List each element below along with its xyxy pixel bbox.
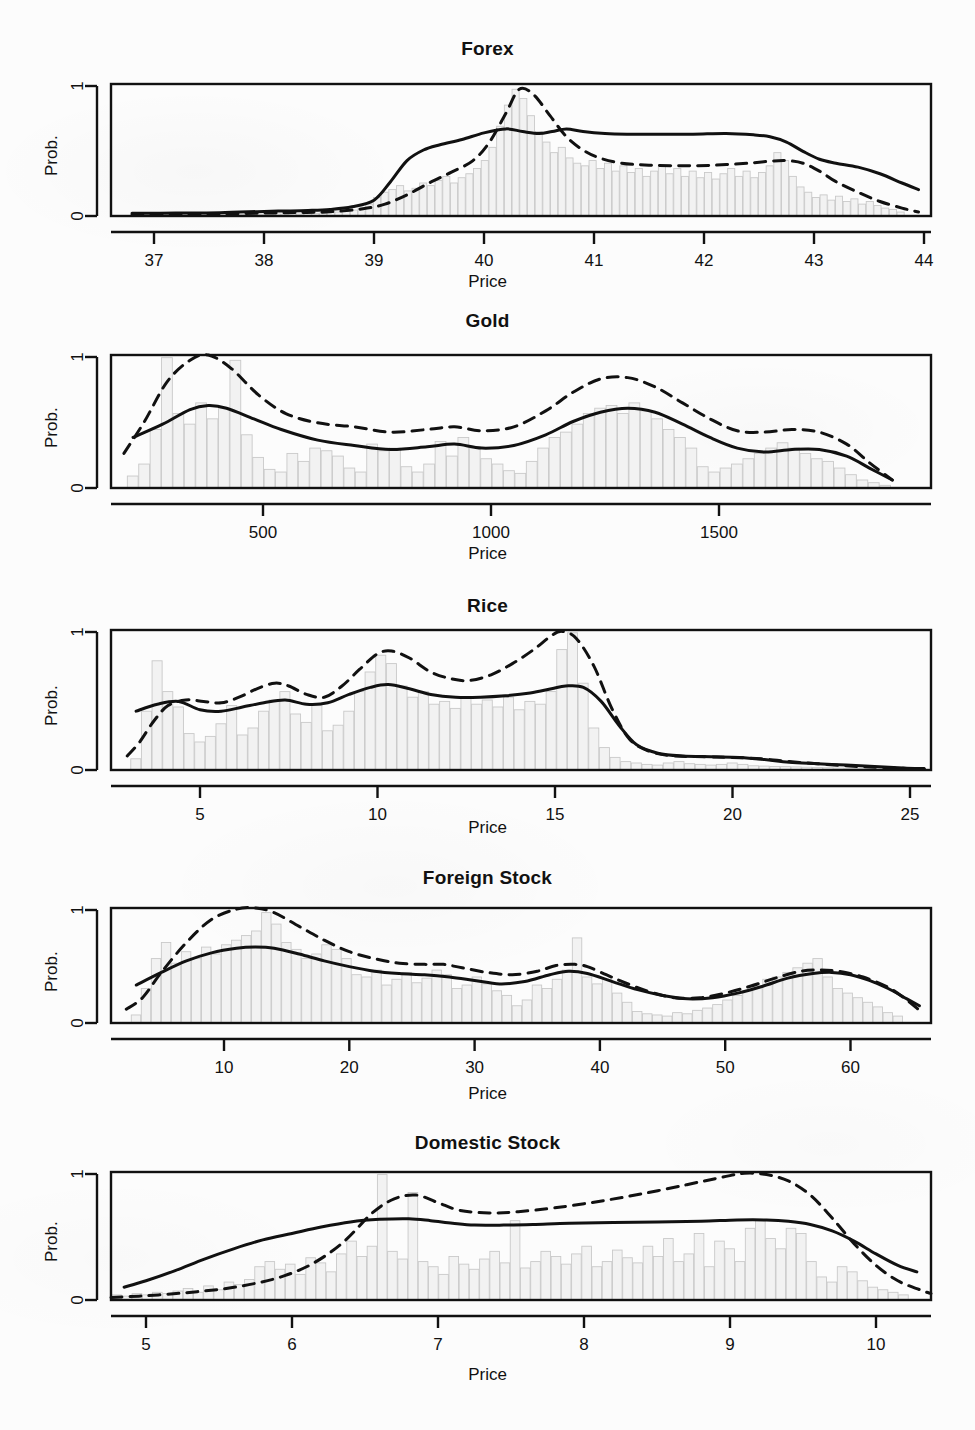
plot-area: 105678910 xyxy=(0,0,975,1395)
histogram-bar xyxy=(848,1272,858,1300)
histogram-bar xyxy=(500,1263,510,1300)
histogram-bar xyxy=(377,1175,387,1300)
histogram-bar xyxy=(766,1239,776,1300)
histogram-bar xyxy=(684,1254,694,1300)
x-tick-label: 5 xyxy=(141,1335,150,1354)
histogram-bar xyxy=(337,1254,347,1300)
histogram-bar xyxy=(285,1264,295,1300)
histogram-bar xyxy=(756,1221,766,1300)
histogram-bar xyxy=(858,1281,868,1300)
histogram-bar xyxy=(326,1272,336,1300)
histogram-bar xyxy=(316,1263,326,1300)
histogram-bar xyxy=(510,1221,520,1300)
histogram-bar xyxy=(490,1251,500,1300)
histogram-bar xyxy=(653,1256,663,1300)
x-tick-label: 10 xyxy=(867,1335,886,1354)
histogram-bar xyxy=(561,1264,571,1300)
histogram-bar xyxy=(837,1267,847,1300)
histogram-bar xyxy=(643,1246,653,1300)
histogram-bar xyxy=(786,1228,796,1300)
histogram-bar xyxy=(602,1262,612,1300)
histogram-bar xyxy=(408,1192,418,1300)
histogram-bar xyxy=(694,1233,704,1300)
histogram-bar xyxy=(439,1274,449,1300)
histogram-bar xyxy=(664,1239,674,1300)
histogram-bars xyxy=(112,1175,909,1300)
histogram-bar xyxy=(398,1259,408,1300)
x-tick-label: 8 xyxy=(579,1335,588,1354)
histogram-bar xyxy=(459,1264,469,1300)
histogram-bar xyxy=(725,1249,735,1300)
histogram-bar xyxy=(224,1282,234,1300)
x-tick-label: 9 xyxy=(725,1335,734,1354)
histogram-bar xyxy=(469,1269,479,1300)
histogram-bar xyxy=(796,1233,806,1300)
histogram-bar xyxy=(674,1262,684,1300)
histogram-bar xyxy=(275,1269,285,1300)
histogram-bar xyxy=(776,1249,786,1300)
histogram-bar xyxy=(255,1267,265,1300)
histogram-bar xyxy=(551,1256,561,1300)
histogram-bar xyxy=(296,1274,306,1300)
histogram-bar xyxy=(878,1290,888,1300)
histogram-bar xyxy=(612,1250,622,1300)
histogram-bar xyxy=(418,1262,428,1300)
histogram-bar xyxy=(715,1241,725,1300)
histogram-bar xyxy=(541,1251,551,1300)
histogram-bar xyxy=(449,1256,459,1300)
histogram-bar xyxy=(367,1246,377,1300)
histogram-bar xyxy=(704,1267,714,1300)
x-tick-label: 7 xyxy=(433,1335,442,1354)
y-tick-label: 1 xyxy=(68,1169,87,1178)
histogram-bar xyxy=(868,1287,878,1300)
histogram-bar xyxy=(388,1251,398,1300)
histogram-bar xyxy=(807,1262,817,1300)
histogram-bar xyxy=(347,1241,357,1300)
histogram-bar xyxy=(204,1286,214,1300)
histogram-bar xyxy=(735,1262,745,1300)
histogram-bar xyxy=(633,1263,643,1300)
histogram-bar xyxy=(183,1288,193,1300)
histogram-bar xyxy=(817,1277,827,1300)
histogram-bar xyxy=(429,1267,439,1300)
histogram-bar xyxy=(827,1282,837,1300)
histogram-bar xyxy=(572,1254,582,1300)
histogram-bar xyxy=(531,1262,541,1300)
histogram-bar xyxy=(480,1259,490,1300)
histogram-bar xyxy=(745,1228,755,1300)
histogram-bar xyxy=(520,1268,530,1300)
histogram-bar xyxy=(582,1246,592,1300)
x-tick-label: 6 xyxy=(287,1335,296,1354)
histogram-bar xyxy=(306,1258,316,1300)
histogram-bar xyxy=(623,1258,633,1300)
y-tick-label: 0 xyxy=(68,1295,87,1304)
histogram-bar xyxy=(357,1256,367,1300)
histogram-bar xyxy=(592,1267,602,1300)
